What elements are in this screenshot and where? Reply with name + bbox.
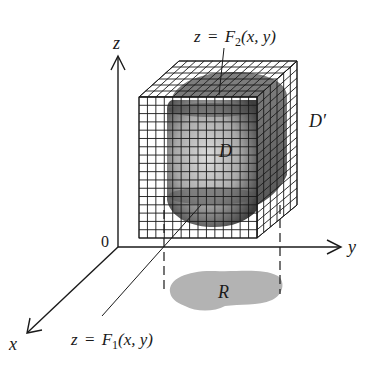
z-axis-label: z xyxy=(112,33,120,53)
lower-surface-label: z = F1(x, y) xyxy=(70,330,153,352)
x-axis-line xyxy=(28,247,118,332)
x-axis-label: x xyxy=(8,334,17,354)
triple-integral-diagram: z y x 0 z = F2(x, y) z = F1(x, y) D D′ R xyxy=(0,0,375,365)
region-R-label: R xyxy=(217,282,229,302)
upper-surface-label: z = F2(x, y) xyxy=(193,27,276,49)
region-D-label: D xyxy=(218,141,232,161)
box-D-prime-label: D′ xyxy=(308,111,327,131)
origin-label: 0 xyxy=(101,233,109,250)
y-axis-label: y xyxy=(346,237,356,257)
diagram-canvas: z y x 0 z = F2(x, y) z = F1(x, y) D D′ R xyxy=(0,0,375,365)
